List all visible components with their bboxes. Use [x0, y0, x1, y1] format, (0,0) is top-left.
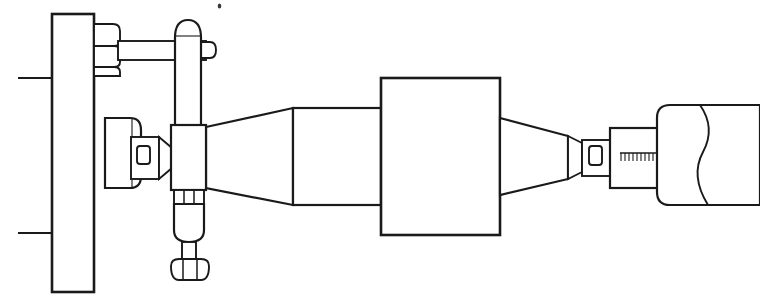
graduated-sleeve [610, 128, 658, 188]
right-window-connector [568, 136, 610, 179]
collar-band [174, 190, 204, 204]
lower-capsule-body [174, 204, 204, 242]
main-body [381, 78, 500, 235]
speck-artifact [218, 3, 222, 8]
post-side-stub [200, 42, 216, 58]
hex-nut-top-lower-face [94, 67, 120, 76]
left-taper-cone [206, 108, 293, 205]
left-inspection-window [137, 146, 150, 164]
intermediate-cylinder [293, 108, 381, 205]
right-taper-cone [500, 118, 568, 195]
hex-nut-top-mid-face [94, 46, 120, 67]
center-junction-block [171, 125, 206, 190]
right-connector-cone [568, 136, 582, 179]
assembly-line-drawing [0, 0, 760, 307]
hex-nut-top-upper-face [94, 24, 120, 46]
hex-nut-bottom-body [171, 259, 209, 280]
left-window-connector [131, 137, 172, 179]
hex-nut-top [94, 24, 120, 76]
hex-nut-bottom [171, 259, 209, 280]
lower-stem [182, 242, 196, 259]
right-inspection-window [589, 146, 602, 165]
mounting-wall-plate [52, 14, 94, 292]
technical-drawing-canvas [0, 0, 760, 307]
right-end-body-outline [657, 105, 760, 205]
segmented-collar [174, 190, 204, 204]
right-end-body [657, 105, 760, 205]
